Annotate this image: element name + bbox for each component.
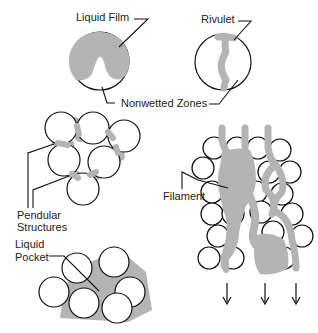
rivulet-leader-line <box>234 21 251 40</box>
pendular-label-line1: Pendular <box>17 209 61 221</box>
particle <box>102 293 132 323</box>
liquid-bridge-overlay <box>72 174 78 178</box>
liquid-pocket-panel: Liquid Pocket <box>15 238 152 323</box>
liquid-film-leader-line <box>119 19 148 47</box>
filament-label: Filament <box>163 190 205 202</box>
particle <box>67 173 99 205</box>
particle <box>77 112 109 144</box>
down-arrow-icon <box>292 283 300 304</box>
liquid-film-panel: Liquid Film <box>69 11 148 90</box>
pendular-structures-panel: Pendular Structures <box>17 112 140 233</box>
liquid-bridge-overlay <box>108 132 113 138</box>
nonwetted-zones-label: Nonwetted Zones <box>121 97 208 109</box>
liquid-bridge-overlay <box>58 143 68 145</box>
down-arrow-icon <box>261 283 269 304</box>
particle <box>198 247 220 269</box>
liquid-bridge-overlay <box>90 172 96 175</box>
particle <box>192 157 214 179</box>
liquid-pocket-label-line1: Liquid <box>15 238 44 250</box>
down-arrow-icon <box>223 283 231 304</box>
rivulet-stream <box>218 37 234 88</box>
flow-arrows <box>223 283 300 304</box>
particle <box>39 277 69 307</box>
particle <box>48 144 80 176</box>
liquid-bridge-overlay <box>116 147 118 153</box>
filament-pool <box>254 234 289 275</box>
filament-panel: Filament <box>163 128 313 304</box>
particle <box>99 247 129 277</box>
pendular-label-line2: Structures <box>17 221 68 233</box>
liquid-pocket-label-line2: Pocket <box>15 251 49 263</box>
pendular-leader-line-2 <box>33 176 69 208</box>
liquid-film-shape <box>69 32 130 80</box>
rivulet-label: Rivulet <box>201 13 235 25</box>
liquid-flow-morphology-diagram: Liquid Film Rivulet Nonwetted Zones <box>0 0 318 333</box>
particle <box>201 203 223 225</box>
liquid-bridge-overlay <box>77 126 79 134</box>
particle <box>45 112 77 144</box>
particle <box>69 288 99 318</box>
particle <box>62 253 92 283</box>
liquid-film-label: Liquid Film <box>76 11 129 23</box>
